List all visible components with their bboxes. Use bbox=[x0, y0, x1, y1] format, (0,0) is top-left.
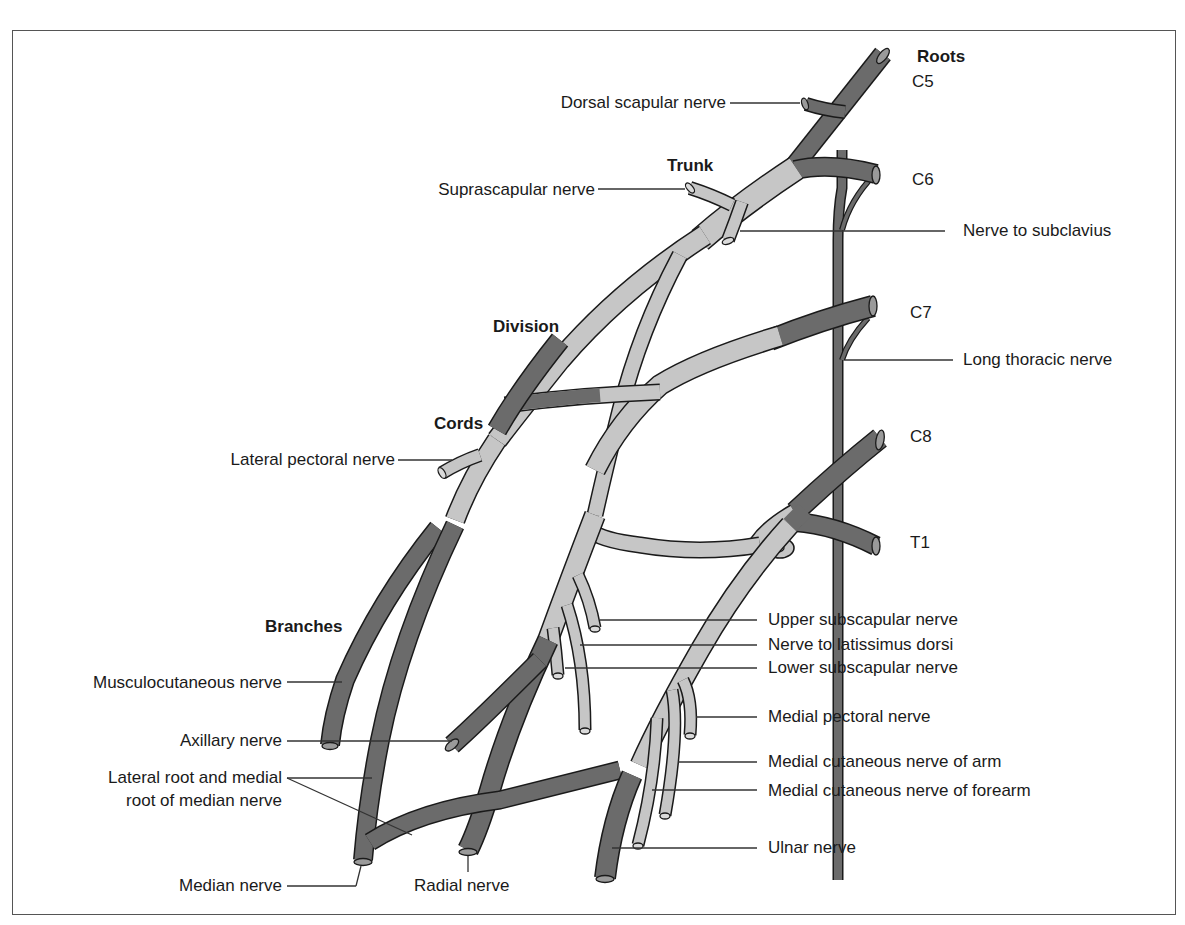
section-label-roots: Roots bbox=[917, 47, 965, 67]
label-radial-nerve: Radial nerve bbox=[414, 876, 509, 896]
upper-trunk-shape bbox=[497, 54, 883, 515]
root-label-c7: C7 bbox=[910, 303, 932, 323]
label-axillary-nerve: Axillary nerve bbox=[180, 731, 282, 751]
label-upper-subscapular-nerve: Upper subscapular nerve bbox=[768, 610, 958, 630]
label-lateral-medial-root-line2: root of median nerve bbox=[126, 791, 282, 811]
label-medial-pectoral-nerve: Medial pectoral nerve bbox=[768, 707, 931, 727]
label-long-thoracic-nerve: Long thoracic nerve bbox=[963, 350, 1112, 370]
section-label-branches: Branches bbox=[265, 617, 342, 637]
label-suprascapular-nerve: Suprascapular nerve bbox=[438, 180, 595, 200]
label-medial-cutaneous-nerve-of-arm: Medial cutaneous nerve of arm bbox=[768, 752, 1001, 772]
section-label-cords: Cords bbox=[434, 414, 483, 434]
label-nerve-to-latissimus-dorsi: Nerve to latissimus dorsi bbox=[768, 635, 953, 655]
root-label-c6: C6 bbox=[912, 170, 934, 190]
root-label-c5: C5 bbox=[912, 72, 934, 92]
root-label-t1: T1 bbox=[910, 533, 930, 553]
root-label-c8: C8 bbox=[910, 427, 932, 447]
label-medial-cutaneous-nerve-of-forearm: Medial cutaneous nerve of forearm bbox=[768, 781, 1031, 801]
label-lateral-pectoral-nerve: Lateral pectoral nerve bbox=[231, 450, 395, 470]
label-dorsal-scapular-nerve: Dorsal scapular nerve bbox=[561, 93, 726, 113]
middle-trunk-shape bbox=[505, 306, 873, 470]
label-ulnar-nerve: Ulnar nerve bbox=[768, 838, 856, 858]
label-lateral-medial-root-line1: Lateral root and medial bbox=[108, 768, 282, 788]
label-musculocutaneous-nerve: Musculocutaneous nerve bbox=[93, 673, 282, 693]
label-nerve-to-subclavius: Nerve to subclavius bbox=[963, 221, 1111, 241]
label-lower-subscapular-nerve: Lower subscapular nerve bbox=[768, 658, 958, 678]
section-label-division: Division bbox=[493, 317, 559, 337]
section-label-trunk: Trunk bbox=[667, 156, 713, 176]
label-median-nerve: Median nerve bbox=[179, 876, 282, 896]
